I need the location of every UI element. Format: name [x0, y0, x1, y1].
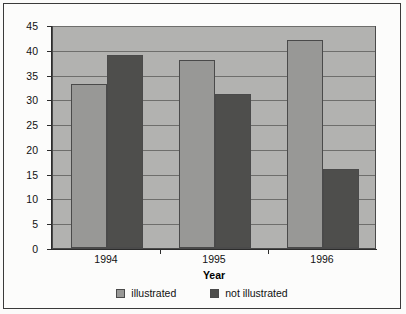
x-axis-tick-mark	[160, 249, 161, 254]
legend-swatch-icon	[116, 289, 125, 298]
y-axis-tick-label: 25	[0, 119, 38, 131]
legend-item-not-illustrated[interactable]: not illustrated	[210, 287, 287, 299]
y-axis-tick-mark	[47, 26, 52, 27]
y-axis-tick-label: 30	[0, 94, 38, 106]
legend-label: illustrated	[131, 287, 176, 299]
chart-frame: Number Year illustratednot illustrated 0…	[3, 3, 401, 309]
y-axis-tick-mark	[47, 150, 52, 151]
x-axis-line	[51, 249, 377, 250]
y-axis-tick-label: 0	[0, 243, 38, 255]
bar-illustrated-1995	[179, 60, 215, 248]
y-axis-tick-mark	[47, 175, 52, 176]
bar-not-illustrated-1995	[215, 94, 251, 248]
chart-legend: illustratednot illustrated	[4, 287, 400, 299]
y-axis-tick-mark	[47, 249, 52, 250]
y-axis-line	[51, 26, 52, 250]
y-axis-tick-label: 5	[0, 218, 38, 230]
y-axis-tick-mark	[47, 199, 52, 200]
x-axis-tick-label: 1994	[94, 253, 117, 265]
y-axis-tick-label: 20	[0, 144, 38, 156]
gridline	[53, 26, 375, 27]
bar-not-illustrated-1996	[323, 169, 359, 248]
legend-swatch-icon	[210, 289, 219, 298]
y-axis-tick-mark	[47, 125, 52, 126]
x-axis-tick-label: 1995	[202, 253, 225, 265]
gridline	[53, 51, 375, 52]
y-axis-tick-mark	[47, 100, 52, 101]
y-axis-tick-mark	[47, 224, 52, 225]
y-axis-tick-label: 10	[0, 193, 38, 205]
bar-not-illustrated-1994	[107, 55, 143, 248]
y-axis-tick-label: 40	[0, 45, 38, 57]
y-axis-tick-label: 35	[0, 70, 38, 82]
bar-illustrated-1994	[71, 84, 107, 248]
y-axis-tick-label: 15	[0, 169, 38, 181]
y-axis-tick-mark	[47, 51, 52, 52]
legend-label: not illustrated	[225, 287, 287, 299]
plot-area	[52, 26, 376, 249]
x-axis-tick-mark	[268, 249, 269, 254]
x-axis-tick-label: 1996	[310, 253, 333, 265]
legend-item-illustrated[interactable]: illustrated	[116, 287, 176, 299]
y-axis-tick-label: 45	[0, 20, 38, 32]
y-axis-tick-mark	[47, 76, 52, 77]
x-axis-title: Year	[203, 269, 225, 281]
bar-illustrated-1996	[287, 40, 323, 248]
